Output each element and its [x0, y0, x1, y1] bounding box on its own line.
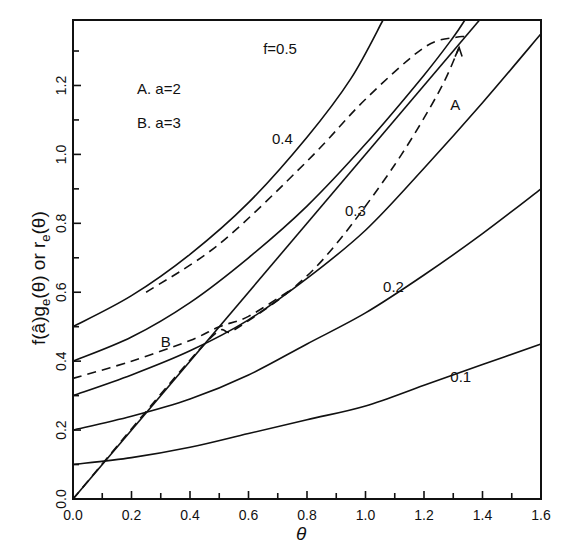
y-tick-label: 0.6 — [53, 282, 69, 302]
series-line-f-0-4 — [73, 20, 465, 361]
y-tick-label: 1.0 — [53, 144, 69, 164]
y-axis: 0.00.20.40.60.81.01.2 — [53, 51, 81, 509]
y-axis-title: f(â)ge(θ) or re(θ) — [28, 211, 53, 345]
x-tick-label: 0.2 — [122, 507, 142, 523]
y-tick-label: 0.4 — [53, 351, 69, 371]
series-line-f-0-2 — [73, 189, 541, 430]
series-label: 0.2 — [383, 278, 404, 295]
series-label: B — [161, 333, 171, 350]
x-tick-label: 0.8 — [297, 507, 317, 523]
y-tick-label: 0.8 — [53, 213, 69, 233]
y-tick-label: 1.2 — [53, 76, 69, 96]
chart: 0.00.20.40.60.81.01.21.41.6 0.00.20.40.6… — [0, 0, 565, 553]
x-axis: 0.00.20.40.60.81.01.21.41.6 — [63, 491, 551, 523]
legend-b: B. a=3 — [137, 114, 181, 131]
series-line-a-upper-branch — [146, 36, 468, 292]
x-axis-title: θ — [296, 523, 307, 544]
y-tick-label: 0.0 — [53, 489, 69, 509]
x-tick-label: 0.6 — [239, 507, 259, 523]
series-label: A — [450, 96, 460, 113]
x-tick-label: 0.4 — [180, 507, 200, 523]
series-line-b-a-3- — [73, 289, 292, 379]
series-line-f-0-1 — [73, 344, 541, 465]
series-line-f-0-5 — [73, 20, 383, 327]
series-label: f=0.5 — [263, 40, 297, 57]
x-tick-label: 1.4 — [473, 507, 493, 523]
x-tick-label: 1.6 — [531, 507, 551, 523]
series-label: 0.3 — [345, 202, 366, 219]
y-tick-label: 0.2 — [53, 420, 69, 440]
x-tick-label: 1.0 — [356, 507, 376, 523]
arrowhead-icon — [455, 48, 462, 57]
legend-a: A. a=2 — [137, 80, 181, 97]
x-tick-label: 1.2 — [414, 507, 434, 523]
series-label: 0.4 — [272, 130, 293, 147]
series-label: 0.1 — [450, 368, 471, 385]
